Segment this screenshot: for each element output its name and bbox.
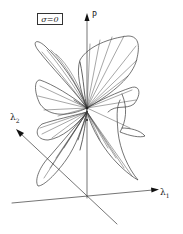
p-axis-label: P [92, 12, 97, 20]
cusp-point [86, 107, 89, 110]
lambda1-subscript: 1 [166, 192, 170, 199]
lambda2-axis-label: λ2 [10, 113, 20, 124]
lower-right-sheet [87, 100, 138, 180]
lambda1-axis-label: λ1 [160, 188, 170, 199]
central-cusp-curves [74, 62, 88, 150]
axes [12, 18, 153, 224]
middle-right-lobe [87, 87, 145, 137]
lambda2-subscript: 2 [16, 117, 20, 124]
bifurcation-surface-diagram [0, 0, 183, 234]
lambda1-axis-arrow-icon [151, 188, 159, 193]
p-axis-arrow-icon [85, 13, 90, 21]
upper-right-lobe [78, 36, 138, 108]
lambda2-axis [20, 133, 117, 224]
upper-left-lobe [35, 42, 87, 108]
p-axis-label-text: P [92, 11, 97, 20]
parameter-label: σ=0 [41, 15, 58, 24]
parameter-label-box: σ=0 [37, 13, 63, 25]
cusp-point-lower [86, 119, 88, 121]
